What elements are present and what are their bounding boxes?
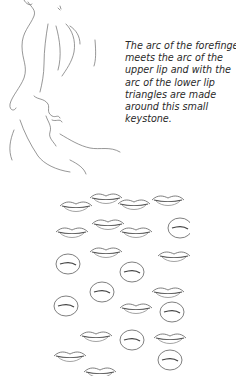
caption-line: upper lip and with the <box>125 64 236 76</box>
caption-line: triangles are made <box>125 89 236 101</box>
lips-sketch-grid-illustration <box>50 190 190 376</box>
caption-line: The arc of the forefinger <box>125 40 236 52</box>
caption-line: around this small <box>125 101 236 113</box>
caption-line: meets the arc of the <box>125 52 236 64</box>
caption-line: keystone. <box>125 113 236 125</box>
caption-text: The arc of the forefinger meets the arc … <box>125 40 236 125</box>
caption-line: arc of the lower lip <box>125 77 236 89</box>
profile-sketch-illustration <box>0 0 130 180</box>
